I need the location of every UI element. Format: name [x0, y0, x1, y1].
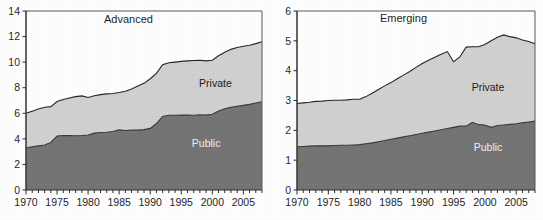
- panel-title-emerging: Emerging: [380, 12, 427, 24]
- x-tick-label: 2000: [473, 196, 497, 208]
- band-label-private-emerging: Private: [472, 81, 505, 93]
- y-tick-label: 4: [14, 133, 20, 145]
- x-tick-label: 1990: [139, 196, 163, 208]
- chart-panel-emerging: 012345619701975198019851990199520002005 …: [271, 0, 543, 220]
- y-tick-label: 8: [14, 81, 20, 93]
- band-label-public-advanced: Public: [192, 137, 221, 149]
- y-tick-label: 14: [8, 5, 20, 17]
- y-tick-label: 4: [285, 64, 291, 76]
- x-tick-label: 1980: [76, 196, 100, 208]
- x-tick-label: 1980: [348, 196, 372, 208]
- y-tick-label: 2: [285, 124, 291, 136]
- x-tick-label: 1985: [379, 196, 403, 208]
- chart-panel-advanced: 0246810121419701975198019851990199520002…: [0, 0, 271, 220]
- y-tick-label: 6: [285, 5, 291, 17]
- band-label-private-advanced: Private: [199, 77, 232, 89]
- x-tick-label: 1995: [442, 196, 466, 208]
- y-tick-label: 10: [8, 56, 20, 68]
- x-tick-label: 1995: [170, 196, 194, 208]
- advanced-chart-svg: 0246810121419701975198019851990199520002…: [0, 0, 271, 220]
- x-tick-label: 1970: [14, 196, 38, 208]
- y-tick-label: 5: [285, 35, 291, 47]
- y-tick-label: 6: [14, 107, 20, 119]
- x-tick-label: 1975: [45, 196, 69, 208]
- y-tick-label: 1: [285, 154, 291, 166]
- figure-root: 0246810121419701975198019851990199520002…: [0, 0, 543, 220]
- panel-title-advanced: Advanced: [104, 13, 153, 25]
- y-tick-label: 2: [14, 158, 20, 170]
- x-tick-label: 2000: [201, 196, 225, 208]
- x-tick-label: 2005: [232, 196, 256, 208]
- x-tick-label: 1985: [107, 196, 131, 208]
- y-tick-label: 12: [8, 30, 20, 42]
- band-label-public-emerging: Public: [474, 141, 503, 153]
- y-tick-label: 0: [14, 184, 20, 196]
- x-tick-label: 2005: [505, 196, 529, 208]
- y-tick-label: 3: [285, 94, 291, 106]
- emerging-chart-svg: 012345619701975198019851990199520002005 …: [271, 0, 543, 220]
- x-tick-label: 1970: [285, 196, 309, 208]
- y-tick-label: 0: [285, 184, 291, 196]
- x-tick-label: 1975: [317, 196, 341, 208]
- x-tick-label: 1990: [411, 196, 435, 208]
